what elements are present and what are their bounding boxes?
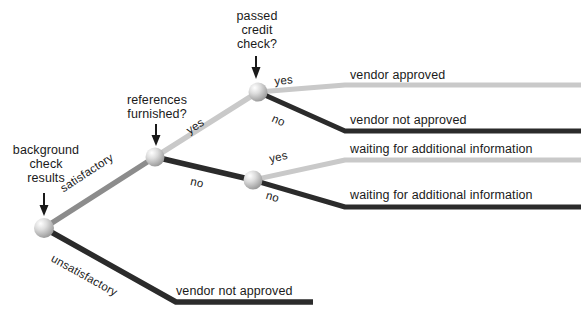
node-label-line: credit [212,23,302,37]
edge-label-references-no: no [189,175,205,191]
outcome-label-vendor-approved: vendor approved [350,68,445,82]
pointer-arrow-passed-credit-check [252,56,261,79]
outcome-label-vendor-not-approved-credit: vendor not approved [350,113,467,127]
node-label-line: furnished? [110,107,204,121]
outcome-label-waiting-info-yes: waiting for additional information [350,142,533,156]
node-label-line: passed [212,9,302,23]
decision-tree-diagram: background check results references furn… [0,0,581,323]
node-label-line: check [0,157,92,171]
node-label-line: background [0,143,92,157]
outcome-label-vendor-not-approved-background: vendor not approved [176,284,293,298]
node-unlabeled-lower[interactable] [244,171,263,190]
branch-references-no [155,157,253,180]
pointer-arrow-background-check [40,193,49,216]
outcome-label-waiting-info-no: waiting for additional information [350,188,533,202]
pointer-arrow-references-furnished [152,124,161,146]
node-passed-credit-check[interactable] [249,83,268,102]
edge-label-credit-yes: yes [274,73,294,87]
node-references-furnished[interactable] [146,148,165,167]
branch-credit-yes [258,85,581,92]
node-label-references-furnished: references furnished? [110,93,204,121]
node-label-line: check? [212,37,302,51]
node-label-line: references [110,93,204,107]
branch-lower-yes [253,160,581,180]
node-label-passed-credit-check: passed credit check? [212,9,302,51]
node-background-check-results[interactable] [34,218,54,238]
